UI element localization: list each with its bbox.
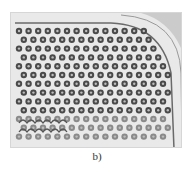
figure-caption: b): [0, 150, 194, 162]
hole-lattice: [11, 13, 182, 148]
micrograph-image: [10, 12, 182, 148]
